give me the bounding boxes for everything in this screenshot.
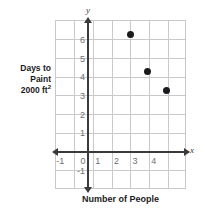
x-tick-label: 3: [127, 156, 143, 166]
gridline-vertical: [168, 21, 169, 188]
y-tick-label: -1: [71, 166, 85, 176]
x-axis-letter: x: [190, 145, 194, 155]
x-axis-line: [56, 151, 189, 153]
data-point: [163, 87, 170, 94]
x-axis-title: Number of People: [55, 194, 186, 205]
y-axis-arrow-up-icon: [84, 17, 92, 23]
y-tick-label: 5: [71, 54, 85, 64]
y-axis-arrow-down-icon: [84, 187, 92, 193]
x-axis-arrow-left-icon: [52, 148, 58, 156]
x-tick-label: 4: [146, 156, 162, 166]
y-tick-label: 6: [71, 35, 85, 45]
x-tick-label: 0: [75, 156, 91, 166]
graph-figure: y x -1123456-101234 Days toPaint2000 ft2…: [0, 0, 205, 211]
x-tick-label: 1: [90, 156, 106, 166]
x-tick-label: 2: [108, 156, 124, 166]
data-point: [127, 31, 134, 38]
y-tick-label: 1: [71, 128, 85, 138]
x-tick-label: -1: [52, 156, 68, 166]
y-axis-title: Days toPaint2000 ft2: [0, 63, 51, 96]
y-tick-label: 4: [71, 72, 85, 82]
y-tick-label: 3: [71, 91, 85, 101]
y-axis-letter: y: [86, 5, 90, 15]
y-tick-label: 2: [71, 110, 85, 120]
